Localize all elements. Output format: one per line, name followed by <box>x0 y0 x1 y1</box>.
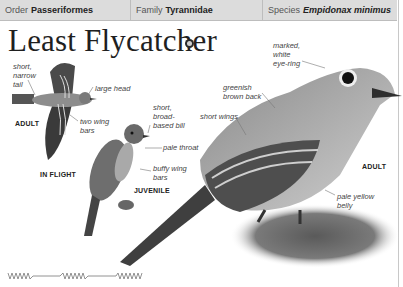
caption-juvenile: JUVENILE <box>134 187 170 194</box>
label-large-head: large head <box>95 84 130 93</box>
label-buffy-wing-bars: buffy wing bars <box>153 164 187 182</box>
song-waveform-icon <box>8 273 142 279</box>
field-guide-page: Order Passeriformes Family Tyrannidae Sp… <box>0 0 399 287</box>
label-eye-ring: marked, white eye-ring <box>273 41 300 68</box>
label-pale-yellow-belly: pale yellow belly <box>337 192 374 210</box>
label-greenish-brown-back: greenish brown back <box>223 83 261 101</box>
caption-in-flight: IN FLIGHT <box>40 171 76 178</box>
label-bill: short, broad- based bill <box>153 103 185 130</box>
caption-adult: ADULT <box>362 163 386 170</box>
label-tail: short, narrow tail <box>13 62 36 89</box>
label-short-wings: short wings <box>200 112 238 121</box>
label-pale-throat: pale throat <box>163 143 198 152</box>
label-two-wing-bars: two wing bars <box>80 117 109 135</box>
caption-flight-adult: ADULT <box>15 120 39 127</box>
juvenile-bird-illustration <box>82 124 150 236</box>
bird-illustrations <box>0 0 403 287</box>
